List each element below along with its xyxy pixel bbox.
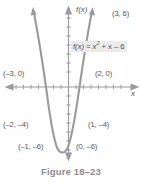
point-label-neg3-0: (–3, 0) bbox=[3, 70, 24, 78]
figure-caption: Figure 18–23 bbox=[0, 166, 142, 177]
equation-lhs: f(x) = x bbox=[73, 42, 96, 51]
point-label-2-0: (2, 0) bbox=[95, 70, 112, 78]
equation-rhs: + x – 6 bbox=[99, 42, 124, 51]
x-axis-label: x bbox=[131, 90, 135, 98]
graph-plot-area: f(x) x f(x) = x2 + x – 6 (3, 6) (–3, 0) … bbox=[0, 0, 142, 162]
parabola-curve bbox=[31, 7, 95, 153]
point-label-neg2-neg4: (–2, –4) bbox=[3, 121, 28, 129]
point-label-3-6: (3, 6) bbox=[112, 10, 129, 18]
figure-container: f(x) x f(x) = x2 + x – 6 (3, 6) (–3, 0) … bbox=[0, 0, 142, 185]
graph-svg bbox=[0, 0, 142, 162]
point-label-neg1-neg6: (–1, –6) bbox=[18, 143, 43, 151]
point-label-0-neg6: (0, –6) bbox=[76, 143, 97, 151]
y-axis-label: f(x) bbox=[76, 6, 87, 14]
equation-annotation: f(x) = x2 + x – 6 bbox=[71, 41, 127, 52]
x-axis bbox=[6, 84, 138, 90]
point-label-1-neg4: (1, –4) bbox=[88, 121, 109, 129]
